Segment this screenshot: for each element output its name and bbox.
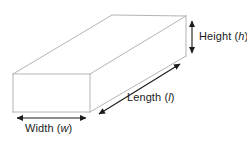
width-label: Width (w)	[25, 122, 72, 135]
length-label-close-paren: )	[171, 91, 175, 103]
prism-front-face	[13, 74, 90, 112]
height-label: Height (h)	[199, 30, 247, 43]
width-label-name: Width	[25, 122, 54, 134]
width-label-close-paren: )	[69, 122, 73, 134]
cuboid-diagram: Height (h) Length (l) Width (w)	[0, 0, 247, 143]
length-label-name: Length	[127, 91, 161, 103]
width-label-variable: w	[61, 122, 69, 134]
length-label: Length (l)	[127, 91, 174, 104]
height-label-close-paren: )	[245, 30, 247, 42]
height-label-name: Height	[199, 30, 231, 42]
